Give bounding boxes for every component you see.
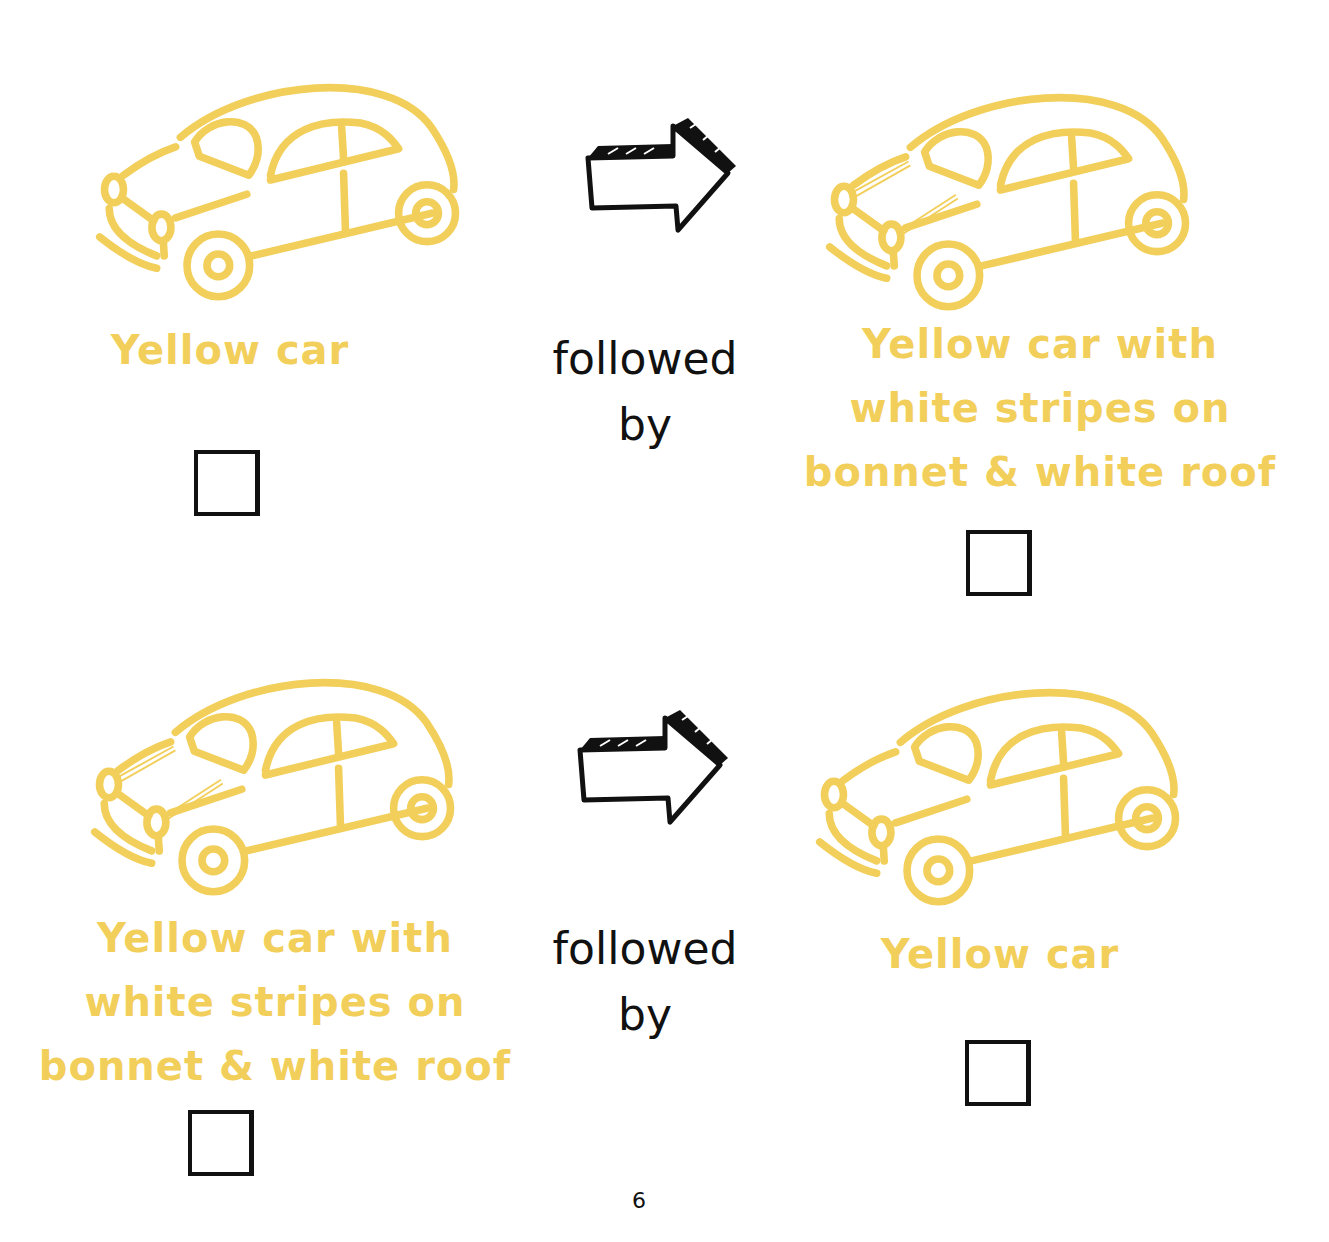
row1-left-label: Yellow car	[80, 318, 380, 382]
row1-connector-text: followed by	[535, 326, 755, 458]
row1-left-checkbox[interactable]	[194, 450, 260, 516]
row1-right-checkbox[interactable]	[966, 530, 1032, 596]
page-number: 6	[614, 1188, 664, 1213]
row1-right-label: Yellow car with white stripes on bonnet …	[800, 312, 1280, 504]
row2-right-label: Yellow car	[850, 922, 1150, 986]
row2-connector-text: followed by	[535, 916, 755, 1048]
by-text: by	[535, 982, 755, 1048]
arrow-right-icon	[578, 118, 748, 238]
followed-text: followed	[535, 916, 755, 982]
row2-left-checkbox[interactable]	[188, 1110, 254, 1176]
row2-left-label: Yellow car with white stripes on bonnet …	[35, 906, 515, 1098]
arrow-right-icon	[570, 710, 740, 830]
yellow-car-striped-icon	[90, 650, 460, 900]
yellow-car-icon	[815, 660, 1185, 910]
row2-right-checkbox[interactable]	[965, 1040, 1031, 1106]
by-text: by	[535, 392, 755, 458]
yellow-car-striped-icon	[825, 65, 1195, 315]
followed-text: followed	[535, 326, 755, 392]
yellow-car-icon	[95, 55, 465, 305]
